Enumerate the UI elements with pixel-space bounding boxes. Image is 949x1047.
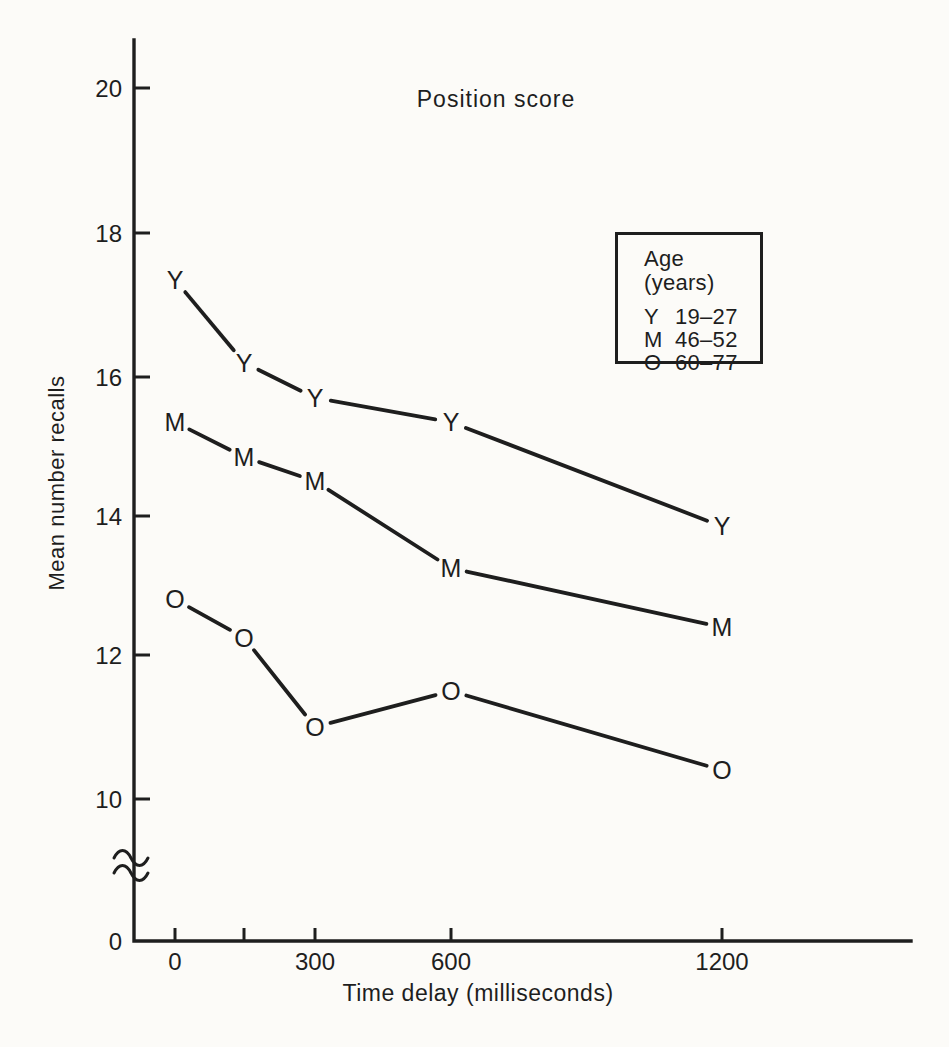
marker-M-1: M bbox=[234, 443, 255, 471]
series-O-segment-1 bbox=[254, 650, 305, 714]
y-tick-label-16: 16 bbox=[95, 364, 122, 391]
legend-entry: O 60–77 bbox=[644, 351, 760, 374]
series-Y-segment-0 bbox=[185, 292, 234, 350]
legend-symbol: M bbox=[644, 328, 675, 351]
legend-title: Age (years) bbox=[644, 247, 760, 295]
marker-M-3: M bbox=[441, 554, 462, 582]
series-O-segment-2 bbox=[330, 695, 435, 723]
x-tick-label-0: 0 bbox=[168, 948, 181, 975]
series-O-segment-3 bbox=[466, 695, 706, 765]
series-O-segment-0 bbox=[189, 607, 230, 630]
y-tick-label-18: 18 bbox=[95, 220, 122, 247]
series-Y-segment-3 bbox=[466, 428, 707, 521]
marker-Y-0: Y bbox=[167, 266, 184, 294]
marker-M-4: M bbox=[712, 613, 733, 641]
marker-Y-4: Y bbox=[714, 512, 731, 540]
legend-entry: Y 19–27 bbox=[644, 305, 760, 328]
series-M-segment-3 bbox=[467, 572, 707, 624]
legend-range: 19–27 bbox=[675, 305, 738, 328]
series-Y-segment-2 bbox=[331, 401, 435, 420]
marker-M-2: M bbox=[305, 467, 326, 495]
y-tick-label-14: 14 bbox=[95, 503, 122, 530]
series-Y-segment-1 bbox=[258, 370, 300, 391]
figure-page: 201816141210003006001200YYYYYMMMMMOOOOO … bbox=[0, 0, 949, 1047]
y-origin-label: 0 bbox=[109, 928, 122, 955]
marker-M-0: M bbox=[165, 408, 186, 436]
y-tick-label-12: 12 bbox=[95, 642, 122, 669]
legend-symbol: O bbox=[644, 351, 675, 374]
marker-Y-3: Y bbox=[443, 408, 460, 436]
series-M-segment-0 bbox=[189, 429, 229, 449]
marker-O-4: O bbox=[712, 756, 731, 784]
axes-line bbox=[134, 40, 911, 941]
marker-O-2: O bbox=[305, 713, 324, 741]
marker-O-1: O bbox=[234, 624, 253, 652]
x-tick-label-300: 300 bbox=[295, 948, 335, 975]
legend-entry: M 46–52 bbox=[644, 328, 760, 351]
chart-plot: 201816141210003006001200YYYYYMMMMMOOOOO bbox=[0, 0, 949, 1047]
marker-Y-1: Y bbox=[236, 349, 253, 377]
legend-range: 60–77 bbox=[675, 351, 738, 374]
marker-Y-2: Y bbox=[307, 384, 324, 412]
chart-title: Position score bbox=[417, 86, 575, 113]
series-M-segment-2 bbox=[328, 490, 437, 560]
x-axis-title: Time delay (milliseconds) bbox=[342, 980, 613, 1007]
y-tick-label-10: 10 bbox=[95, 786, 122, 813]
marker-O-0: O bbox=[165, 585, 184, 613]
x-tick-label-600: 600 bbox=[431, 948, 471, 975]
series-M-segment-1 bbox=[259, 462, 300, 476]
legend-range: 46–52 bbox=[675, 328, 738, 351]
y-axis-break-mark-0 bbox=[114, 851, 148, 866]
legend-symbol: Y bbox=[644, 305, 675, 328]
y-axis-title: Mean number recalls bbox=[44, 376, 70, 591]
y-axis-break-mark-1 bbox=[114, 866, 148, 881]
legend-box: Age (years) Y 19–27 M 46–52 O 60–77 bbox=[615, 232, 763, 364]
x-tick-label-1200: 1200 bbox=[695, 948, 748, 975]
y-tick-label-20: 20 bbox=[95, 75, 122, 102]
marker-O-3: O bbox=[441, 677, 460, 705]
